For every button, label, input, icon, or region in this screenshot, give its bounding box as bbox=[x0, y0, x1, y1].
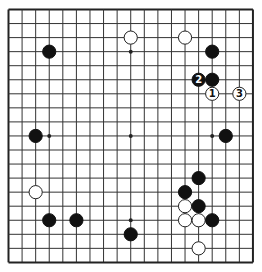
white-stone-disc bbox=[29, 186, 42, 199]
black-stone bbox=[43, 45, 56, 58]
white-stone-disc bbox=[178, 214, 191, 227]
white-stone bbox=[192, 214, 205, 227]
black-stone-disc bbox=[43, 214, 56, 227]
black-stone-disc bbox=[124, 228, 137, 241]
star-point bbox=[129, 218, 133, 222]
black-stone bbox=[206, 45, 219, 58]
move-number-label: 3 bbox=[236, 88, 243, 99]
white-stone bbox=[178, 31, 191, 44]
star-point bbox=[47, 134, 51, 138]
black-stone: 2 bbox=[192, 73, 205, 86]
stones-layer: 213 bbox=[29, 31, 246, 255]
black-stone bbox=[43, 214, 56, 227]
go-board: 213 bbox=[0, 0, 262, 272]
black-stone-disc bbox=[206, 45, 219, 58]
go-board-diagram: 213 bbox=[0, 0, 262, 272]
white-stone-disc bbox=[192, 214, 205, 227]
white-stone-disc bbox=[178, 200, 191, 213]
star-point bbox=[210, 134, 214, 138]
black-stone bbox=[29, 129, 42, 142]
black-stone-disc bbox=[206, 73, 219, 86]
white-stone-disc bbox=[124, 31, 137, 44]
black-stone-disc bbox=[206, 214, 219, 227]
black-stone bbox=[178, 186, 191, 199]
white-stone bbox=[124, 31, 137, 44]
black-stone-disc bbox=[192, 172, 205, 185]
black-stone bbox=[206, 73, 219, 86]
white-stone-disc bbox=[178, 31, 191, 44]
black-stone-disc bbox=[219, 129, 232, 142]
move-number-label: 1 bbox=[209, 88, 216, 99]
black-stone-disc bbox=[192, 200, 205, 213]
white-stone: 3 bbox=[233, 87, 246, 100]
white-stone bbox=[178, 214, 191, 227]
black-stone-disc bbox=[178, 186, 191, 199]
star-point bbox=[129, 134, 133, 138]
black-stone bbox=[219, 129, 232, 142]
black-stone bbox=[192, 200, 205, 213]
black-stone bbox=[70, 214, 83, 227]
black-stone-disc bbox=[70, 214, 83, 227]
white-stone bbox=[29, 186, 42, 199]
black-stone-disc bbox=[43, 45, 56, 58]
star-point bbox=[129, 50, 133, 54]
black-stone-disc bbox=[29, 129, 42, 142]
white-stone bbox=[192, 242, 205, 255]
move-number-label: 2 bbox=[195, 74, 202, 85]
black-stone bbox=[206, 214, 219, 227]
black-stone bbox=[124, 228, 137, 241]
white-stone: 1 bbox=[206, 87, 219, 100]
white-stone bbox=[178, 200, 191, 213]
black-stone bbox=[192, 172, 205, 185]
white-stone-disc bbox=[192, 242, 205, 255]
